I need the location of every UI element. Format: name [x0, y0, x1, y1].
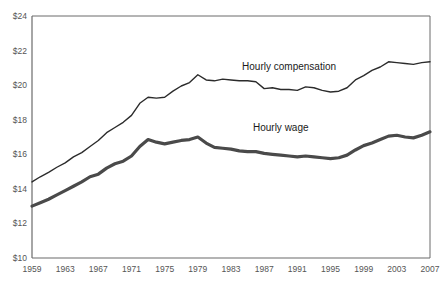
x-tick-label: 1991 — [288, 264, 307, 274]
x-tick-label: 1987 — [255, 264, 274, 274]
x-tick-label: 1995 — [321, 264, 340, 274]
x-tick-label: 1967 — [89, 264, 108, 274]
y-tick-label: $12 — [13, 218, 27, 228]
plot-background — [32, 16, 430, 258]
line-chart: $10$12$14$16$18$20$22$24 195919631967197… — [0, 0, 447, 289]
x-tick-label: 1959 — [23, 264, 42, 274]
y-tick-label: $16 — [13, 149, 27, 159]
x-tick-label: 1975 — [155, 264, 174, 274]
x-tick-label: 2007 — [421, 264, 440, 274]
series-label: Hourly wage — [253, 122, 309, 133]
x-tick-label: 1983 — [222, 264, 241, 274]
x-tick-label: 1999 — [354, 264, 373, 274]
x-axis-tick-labels: 1959196319671971197519791983198719911995… — [23, 264, 440, 274]
y-axis-tick-labels: $10$12$14$16$18$20$22$24 — [13, 11, 27, 263]
y-tick-label: $14 — [13, 184, 27, 194]
x-tick-label: 2003 — [387, 264, 406, 274]
y-tick-label: $18 — [13, 115, 27, 125]
chart-container: $10$12$14$16$18$20$22$24 195919631967197… — [0, 0, 447, 289]
series-label: Hourly compensation — [242, 61, 336, 72]
x-tick-label: 1971 — [122, 264, 141, 274]
y-tick-label: $20 — [13, 80, 27, 90]
y-tick-label: $24 — [13, 11, 27, 21]
x-tick-label: 1979 — [188, 264, 207, 274]
y-tick-label: $10 — [13, 253, 27, 263]
y-tick-label: $22 — [13, 46, 27, 56]
x-tick-label: 1963 — [56, 264, 75, 274]
